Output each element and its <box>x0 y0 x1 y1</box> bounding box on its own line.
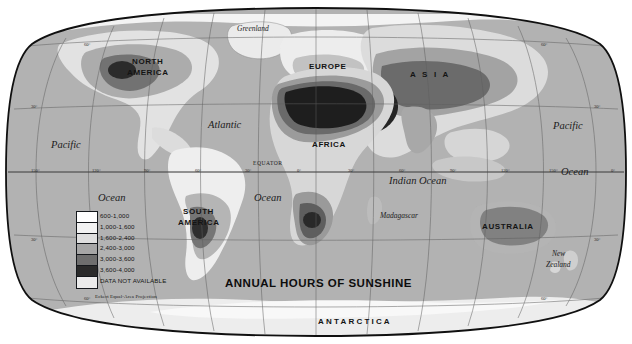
legend-label-1600-2400: 1,600-2,400 <box>100 233 135 244</box>
world-map-figure: Greenland NORTH AMERICA EUROPE A S I A A… <box>0 0 632 344</box>
kalahari-peak-sunshine <box>303 212 321 228</box>
legend-label-no-data: DATA NOT AVAILABLE <box>100 276 166 287</box>
southwest-us-peak-sunshine <box>108 61 136 79</box>
legend-label-1000-1600: 1,000-1,600 <box>100 222 135 233</box>
legend-swatch-2400-3000 <box>77 244 97 255</box>
map-body <box>0 0 632 344</box>
legend-swatch-600-1000 <box>77 212 97 223</box>
legend-swatch-1000-1600 <box>77 223 97 234</box>
map-canvas <box>0 0 632 344</box>
legend-label-2400-3000: 2,400-3,000 <box>100 243 135 254</box>
legend-item <box>77 234 97 245</box>
legend-swatch-no-data <box>77 277 97 288</box>
legend-swatch-1600-2400 <box>77 234 97 245</box>
legend-item <box>77 277 97 288</box>
map-legend <box>76 211 98 289</box>
legend-item <box>77 255 97 266</box>
legend-label-3600-4000: 3,600-4,000 <box>100 265 135 276</box>
legend-swatch-3000-3600 <box>77 255 97 266</box>
legend-label-600-1000: 600-1,000 <box>100 211 129 222</box>
australia-class-3000-3600 <box>480 207 548 246</box>
legend-swatch-3600-4000 <box>77 266 97 277</box>
legend-item <box>77 266 97 277</box>
legend-label-3000-3600: 3,000-3,600 <box>100 254 135 265</box>
sahara-peak-sunshine <box>285 86 367 128</box>
atacama-peak-sunshine <box>192 217 208 239</box>
legend-item <box>77 244 97 255</box>
legend-item <box>77 223 97 234</box>
legend-item <box>77 212 97 223</box>
